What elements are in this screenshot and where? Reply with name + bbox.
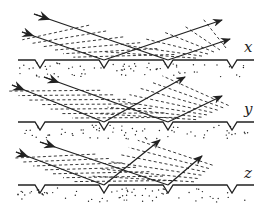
reflected-wavefront (125, 45, 202, 56)
ground-stipple (127, 190, 128, 191)
ground-stipple (121, 69, 122, 70)
ground-stipple (243, 65, 244, 66)
ground-stipple (91, 199, 92, 200)
ground-stipple (54, 73, 55, 74)
ground-stipple (228, 132, 229, 133)
incident-ray-arrow (22, 32, 29, 34)
incident-ray (12, 85, 104, 122)
ground-stipple (142, 195, 143, 196)
ground-stipple (144, 74, 145, 75)
ground-stipple (61, 129, 62, 130)
incident-ray-arrow (40, 142, 50, 145)
ground-stipple (58, 76, 59, 77)
ground-stipple (124, 69, 125, 70)
incident-wavefront (33, 31, 107, 43)
reflected-ray (168, 39, 230, 60)
ground-stipple (194, 71, 195, 72)
ground-stipple (132, 128, 133, 129)
ground-stipple (83, 133, 84, 134)
ground-stipple (94, 67, 95, 68)
incident-wavefront (51, 108, 152, 109)
incident-ray-arrow (12, 85, 19, 88)
ground-stipple (26, 130, 27, 131)
ground-stipple (174, 131, 175, 132)
ground-stipple (46, 192, 47, 193)
ground-stipple (48, 134, 49, 135)
ground-stipple (80, 66, 81, 67)
ground-stipple (61, 134, 62, 135)
ground-stipple (19, 73, 20, 74)
incident-ray-arrow (16, 152, 23, 155)
ground-stipple (142, 130, 143, 131)
ground-stipple (52, 192, 53, 193)
ground-stipple (96, 129, 97, 130)
ground-stipple (218, 125, 219, 126)
ground-stipple (32, 135, 33, 136)
panel-z (13, 140, 254, 203)
ground-stipple (244, 133, 245, 134)
ground-stipple (173, 63, 174, 64)
ground-stipple (135, 66, 136, 67)
ground-stipple (83, 69, 84, 70)
ground-stipple (236, 74, 237, 75)
ground-stipple (218, 198, 219, 199)
reflected-ray (104, 77, 185, 122)
ground-stipple (38, 76, 39, 77)
ground-stipple (146, 138, 147, 139)
ground-stipple (126, 187, 127, 188)
ground-stipple (130, 68, 131, 69)
ground-stipple (95, 125, 96, 126)
ground-stipple (152, 200, 153, 201)
ground-stipple (173, 127, 174, 128)
ground-stipple (193, 64, 194, 65)
panel-label-y: y (243, 100, 253, 118)
ground-stipple (136, 131, 137, 132)
ground-stipple (133, 70, 134, 71)
ground-stipple (42, 194, 43, 195)
ground-stipple (196, 71, 197, 72)
ground-stipple (21, 198, 22, 199)
ground-stipple (226, 130, 227, 131)
ground-stipple (113, 64, 114, 65)
ground-stipple (46, 137, 47, 138)
reflected-wavefront (145, 39, 209, 54)
ground-stipple (72, 66, 73, 67)
ground-stipple (99, 130, 100, 131)
ground-stipple (124, 199, 125, 200)
ground-stipple (19, 67, 20, 68)
ground-stipple (46, 69, 47, 70)
ground-stipple (229, 66, 230, 67)
ground-stipple (244, 200, 245, 201)
ground-stipple (68, 68, 69, 69)
ground-stipple (121, 189, 122, 190)
ground-stipple (49, 65, 50, 66)
ground-stipple (121, 130, 122, 131)
ground-stipple (176, 66, 177, 67)
ground-stipple (202, 191, 203, 192)
ground-stipple (135, 134, 136, 135)
ground-stipple (173, 75, 174, 76)
ground-stipple (59, 63, 60, 64)
ground-stipple (29, 192, 30, 193)
ground-stipple (116, 70, 117, 71)
incident-wavefront (61, 113, 164, 114)
reflection-diagram: x y z (0, 0, 270, 218)
reflected-wavefront (164, 32, 214, 52)
ground-stipple (32, 67, 33, 68)
ground-stipple (146, 67, 147, 68)
ground-stipple (161, 193, 162, 194)
ground-stipple (81, 73, 82, 74)
ground-stipple (167, 136, 168, 137)
ground-stipple (89, 137, 90, 138)
ground-stipple (111, 191, 112, 192)
ground-stipple (203, 137, 204, 138)
ground-stipple (195, 200, 196, 201)
ground-stipple (128, 138, 129, 139)
ground-stipple (81, 129, 82, 130)
reflected-wavefront (130, 95, 213, 113)
ground-stipple (99, 201, 100, 202)
ground-stipple (179, 73, 180, 74)
ground-stipple (184, 72, 185, 73)
ground-stipple (112, 131, 113, 132)
ground-stipple (45, 66, 46, 67)
